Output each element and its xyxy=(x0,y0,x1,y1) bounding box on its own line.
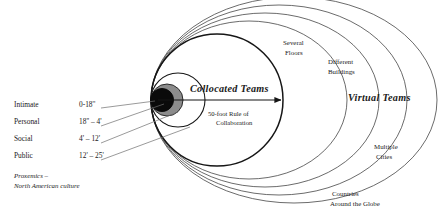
ring-label-different-buildings-line2: Buildings xyxy=(328,68,355,77)
ring-label-multiple-cities-line2: Cities xyxy=(376,153,392,162)
zone-label-public: Public xyxy=(14,152,33,160)
zone-distance-intimate: 0-18'' xyxy=(79,101,95,109)
leader-line-intimate xyxy=(101,101,155,108)
zone-distance-personal: 18'' – 4' xyxy=(79,118,101,126)
virtual-teams-title: Virtual Teams xyxy=(348,92,411,103)
fifty-foot-rule-line2: Collaboration xyxy=(216,119,252,127)
zone-label-intimate: Intimate xyxy=(14,101,39,109)
ring-label-countries-around-globe-line2: Around the Globe xyxy=(330,200,380,209)
ring-label-countries-around-globe-line1: Countries xyxy=(332,190,359,199)
ring-label-several-floors-line2: Floors xyxy=(285,49,303,58)
ring-label-several-floors-line1: Several xyxy=(283,39,304,48)
collocated-teams-title: Collocated Teams xyxy=(190,83,269,94)
ring-label-different-buildings-line1: Different xyxy=(328,58,353,67)
proxemics-source-note-line2: North American culture xyxy=(14,182,79,191)
zone-label-personal: Personal xyxy=(14,118,39,126)
zone-distance-social: 4' – 12' xyxy=(79,135,100,143)
proxemics-source-note-line1: Proxemics – xyxy=(14,172,48,181)
zone-distance-public: 12' – 25' xyxy=(79,152,104,160)
proxemics-collocated-virtual-teams-diagram: Intimate 0-18'' Personal 18'' – 4' Socia… xyxy=(0,0,446,220)
leader-line-social xyxy=(101,112,178,143)
zone-label-social: Social xyxy=(14,135,32,143)
fifty-foot-rule-line1: 50-foot Rule of xyxy=(208,110,249,118)
ring-label-multiple-cities-line1: Multiple xyxy=(374,143,398,152)
